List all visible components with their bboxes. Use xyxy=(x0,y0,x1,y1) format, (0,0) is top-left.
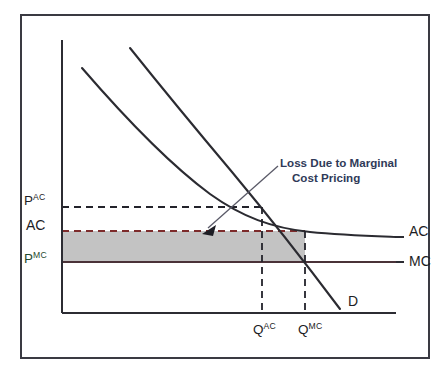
quantity-mc-base: Q xyxy=(298,322,309,337)
quantity-mc-superscript: MC xyxy=(309,321,323,331)
price-mc-superscript: MC xyxy=(33,250,47,260)
quantity-ac-superscript: AC xyxy=(264,321,276,331)
curve-label-demand: D xyxy=(348,294,358,308)
axis-label-quantity-mc: QMC xyxy=(298,323,322,337)
loss-annotation-line-2: Cost Pricing xyxy=(280,171,430,186)
average-cost-curve xyxy=(82,68,396,237)
loss-annotation-line-1: Loss Due to Marginal xyxy=(280,156,397,169)
economics-diagram: PAC AC PMC QAC QMC AC MC D Loss Due to M… xyxy=(0,0,447,378)
shaded-loss-rectangle xyxy=(62,231,305,262)
curve-label-average-cost: AC xyxy=(409,224,428,238)
quantity-ac-base: Q xyxy=(253,322,264,337)
loss-annotation: Loss Due to Marginal Cost Pricing xyxy=(280,156,430,186)
axis-label-quantity-ac: QAC xyxy=(253,323,276,337)
annotation-leader-line xyxy=(208,166,278,228)
curve-label-marginal-cost: MC xyxy=(409,254,431,268)
axis-label-price-mc: PMC xyxy=(24,252,47,266)
plot-canvas xyxy=(0,0,447,378)
price-ac-superscript: AC xyxy=(33,192,45,202)
price-ac-base: P xyxy=(24,193,33,208)
price-mc-base: P xyxy=(24,251,33,266)
axis-label-price-ac: PAC xyxy=(24,194,45,208)
axis-label-average-cost: AC xyxy=(26,218,45,232)
